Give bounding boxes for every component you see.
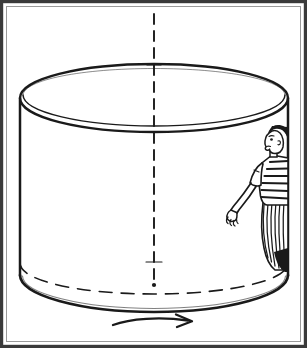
figure-border <box>0 0 307 350</box>
hand-palm <box>227 210 237 221</box>
eye <box>270 138 273 141</box>
axis-end-dot <box>152 283 156 287</box>
rotating-cylinder-diagram-canvas <box>0 0 307 350</box>
figure-root: A large vertical cylinder seen in perspe… <box>0 0 307 350</box>
